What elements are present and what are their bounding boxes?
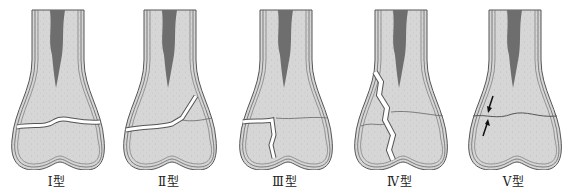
panel-type-3: Ⅲ型: [228, 0, 342, 194]
label-type-2: Ⅱ型: [112, 172, 226, 189]
panel-type-5: Ⅴ型: [457, 0, 571, 194]
panel-type-1: Ⅰ型: [0, 0, 114, 194]
bone-diagram-type-4: [343, 0, 457, 170]
label-type-4: Ⅳ型: [343, 172, 457, 189]
bone-diagram-type-3: [228, 0, 342, 170]
panel-type-2: Ⅱ型: [112, 0, 226, 194]
label-type-5: Ⅴ型: [457, 172, 571, 189]
bone-diagram-type-2: [112, 0, 226, 170]
bone-diagram-type-5: [457, 0, 571, 170]
label-type-1: Ⅰ型: [0, 172, 114, 189]
panel-type-4: Ⅳ型: [343, 0, 457, 194]
bone-diagram-type-1: [0, 0, 114, 170]
label-type-3: Ⅲ型: [228, 172, 342, 189]
